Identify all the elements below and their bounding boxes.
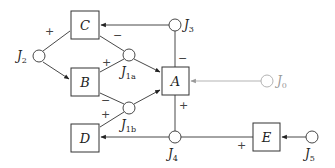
junction-j5: J5 — [302, 131, 318, 163]
junction-j4-label: J4 — [165, 147, 178, 163]
block-d-label: D — [79, 131, 91, 146]
block-e: E — [253, 123, 280, 151]
sign-a-j4: + — [179, 99, 188, 112]
block-b: B — [71, 68, 99, 96]
sign-b-j1a: + — [102, 56, 111, 69]
junction-j0: J0 — [261, 74, 287, 90]
junction-j1a: J1a — [118, 49, 136, 81]
junction-j1a-label: J1a — [118, 65, 136, 81]
edge-j1b-a — [134, 90, 160, 104]
block-c-label: C — [80, 18, 90, 33]
junction-j5-label: J5 — [302, 147, 315, 163]
sign-e-j4: + — [237, 139, 246, 152]
sign-j3-a: − — [178, 52, 187, 65]
junction-j2-label: J2 — [14, 49, 27, 65]
junction-j1b-label: J1b — [118, 118, 136, 134]
edge-j1a-a — [134, 59, 160, 72]
block-e-label: E — [261, 130, 272, 145]
junction-j3: J3 — [169, 18, 194, 34]
junction-j0-label: J0 — [274, 74, 287, 90]
sign-c-j1a: − — [113, 29, 122, 42]
sign-b-j1b: − — [101, 94, 110, 107]
block-a: A — [162, 67, 189, 95]
block-b-label: B — [79, 75, 90, 90]
block-d: D — [71, 124, 99, 152]
sign-j2-c: + — [45, 25, 54, 38]
block-c: C — [71, 11, 99, 39]
junction-j4: J4 — [165, 131, 181, 163]
edge-j2-b — [43, 62, 69, 79]
block-a-label: A — [170, 74, 180, 89]
sign-d-j1b: + — [101, 108, 110, 121]
junction-j1b: J1b — [118, 102, 136, 134]
junction-j2: J2 — [14, 49, 45, 65]
junction-j3-label: J3 — [181, 18, 194, 34]
block-diagram: C B A D E J2 J3 J1a J1b J0 J4 J — [0, 0, 335, 168]
